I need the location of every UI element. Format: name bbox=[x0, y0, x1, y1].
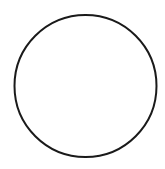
circle-shape bbox=[15, 15, 157, 157]
diagram-canvas bbox=[0, 0, 165, 169]
